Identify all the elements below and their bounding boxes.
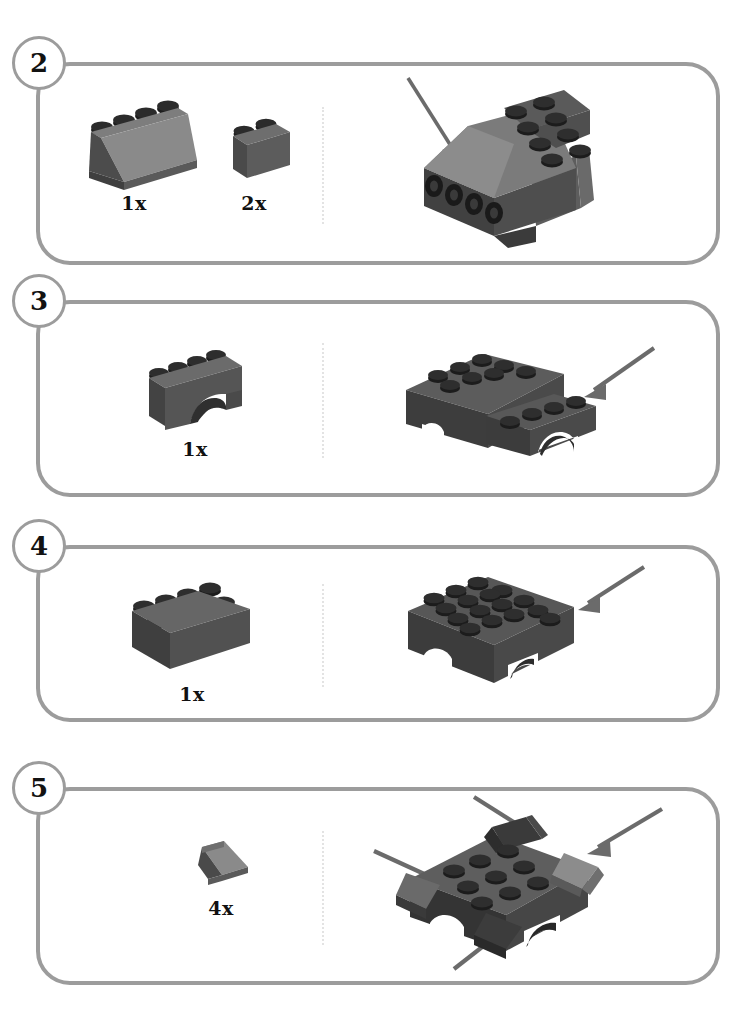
assembly-arrow (587, 809, 662, 857)
step-panel-3: 3 (36, 300, 720, 497)
step-number-badge: 5 (12, 761, 66, 815)
part-count-label: 1x (130, 438, 260, 460)
arch-brick-1x4-icon (130, 348, 260, 434)
assembly-model (388, 332, 708, 462)
part-item: 2x (204, 112, 304, 214)
part-count-label: 1x (122, 683, 262, 705)
assembly-model (376, 76, 686, 246)
step-number-label: 2 (30, 50, 48, 76)
step-panel-4: 4 (36, 545, 720, 722)
brick-2x4-icon (122, 583, 262, 679)
part-item: 1x (130, 348, 260, 460)
parts-list: 1x (36, 545, 326, 722)
part-count-label: 4x (166, 897, 276, 919)
step-number-label: 5 (30, 775, 48, 801)
step-number-badge: 3 (12, 274, 66, 328)
step-number-badge: 2 (12, 36, 66, 90)
step-number-label: 3 (30, 288, 48, 314)
parts-list: 1x (36, 300, 326, 497)
brick-1x2-icon (204, 112, 304, 188)
assembly-arrow (578, 567, 644, 613)
assembly-illustration (336, 62, 720, 265)
part-count-label: 1x (64, 192, 204, 214)
step-number-badge: 4 (12, 519, 66, 573)
part-item: 1x (64, 98, 204, 214)
assembly-model (382, 555, 702, 705)
step-number-label: 4 (30, 533, 48, 559)
slope-brick-1x1-icon (166, 831, 276, 893)
assembly-illustration (336, 300, 720, 497)
assembly-illustration (336, 787, 720, 985)
step-panel-5: 5 4x (36, 787, 720, 985)
part-item: 4x (166, 831, 276, 919)
assembly-illustration (336, 545, 720, 722)
assembly-arrow (584, 348, 654, 400)
slope-brick-2x4-icon (64, 98, 204, 188)
part-item: 1x (122, 583, 262, 705)
parts-list: 1x 2x (36, 62, 326, 265)
step-panel-2: 2 (36, 62, 720, 265)
parts-list: 4x (36, 787, 326, 985)
assembly-model (356, 791, 706, 976)
instruction-page: 2 (0, 0, 750, 1010)
part-count-label: 2x (204, 192, 304, 214)
